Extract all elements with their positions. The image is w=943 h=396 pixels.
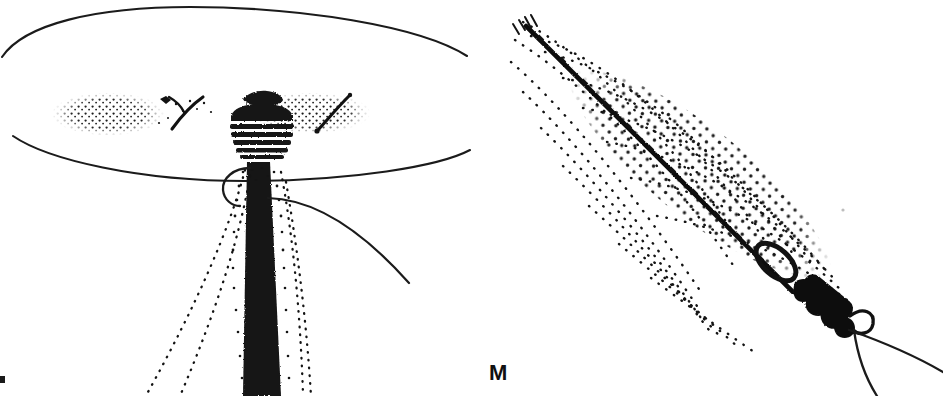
left-panel-drawing: [0, 0, 471, 396]
left-panel-background: [0, 0, 471, 396]
stray-speck: [841, 208, 844, 211]
illustration-plate: M: [0, 0, 943, 396]
left-stippled-lobe: [52, 93, 164, 135]
right-panel: [471, 0, 943, 396]
edge-tick-mark: [0, 376, 5, 383]
left-panel: [0, 0, 471, 396]
figure-label-m: M: [489, 362, 508, 384]
right-panel-drawing: [471, 0, 943, 396]
